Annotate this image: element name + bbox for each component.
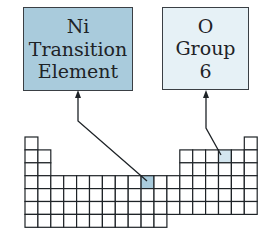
element-cell [90, 189, 103, 202]
element-cell [38, 163, 51, 176]
element-cell [141, 214, 154, 227]
element-cell [64, 214, 77, 227]
element-cell [77, 202, 90, 215]
element-cell [154, 202, 167, 215]
element-cell [25, 214, 38, 227]
element-cell [25, 202, 38, 215]
element-cell [206, 176, 219, 189]
element-cell [167, 189, 180, 202]
element-cell [25, 150, 38, 163]
element-cell [25, 137, 38, 150]
element-cell [180, 150, 193, 163]
element-cell [231, 150, 244, 163]
element-cell [64, 189, 77, 202]
element-cell [102, 214, 115, 227]
element-cell [90, 176, 103, 189]
element-cell [244, 202, 257, 215]
element-cell [244, 189, 257, 202]
element-cell [51, 176, 64, 189]
element-cell [193, 202, 206, 215]
element-cell [180, 163, 193, 176]
element-cell [38, 189, 51, 202]
element-cell [206, 202, 219, 215]
element-cell [141, 189, 154, 202]
element-cell [38, 150, 51, 163]
element-cell [180, 202, 193, 215]
element-cell [244, 176, 257, 189]
periodic-table-grid [25, 137, 257, 227]
element-cell [244, 163, 257, 176]
arrowhead-icon [203, 90, 209, 98]
element-cell [206, 189, 219, 202]
element-cell [180, 176, 193, 189]
element-cell [219, 189, 232, 202]
element-cell [154, 176, 167, 189]
element-cell [102, 189, 115, 202]
element-cell [51, 202, 64, 215]
element-cell [193, 163, 206, 176]
element-cell [128, 214, 141, 227]
element-cell [115, 202, 128, 215]
element-cell [77, 214, 90, 227]
element-cell [102, 176, 115, 189]
o-pointer-arrow [203, 90, 221, 155]
element-cell [90, 202, 103, 215]
element-cell [231, 163, 244, 176]
element-cell [180, 189, 193, 202]
element-cell [154, 214, 167, 227]
element-cell [193, 176, 206, 189]
element-cell [244, 137, 257, 150]
element-cell [231, 176, 244, 189]
element-cell [38, 202, 51, 215]
element-cell [154, 189, 167, 202]
element-cell [64, 176, 77, 189]
element-cell [128, 189, 141, 202]
element-cell [25, 163, 38, 176]
element-cell [77, 176, 90, 189]
element-cell [115, 176, 128, 189]
element-cell [206, 163, 219, 176]
element-cell [206, 150, 219, 163]
element-cell [38, 214, 51, 227]
element-cell [231, 189, 244, 202]
element-cell [167, 176, 180, 189]
element-cell [38, 176, 51, 189]
element-cell [51, 189, 64, 202]
element-cell [219, 202, 232, 215]
element-cell [128, 202, 141, 215]
element-cell [115, 189, 128, 202]
element-cell [193, 150, 206, 163]
element-cell [51, 214, 64, 227]
element-cell [244, 150, 257, 163]
element-cell [219, 150, 232, 163]
element-cell [231, 202, 244, 215]
element-cell [128, 176, 141, 189]
element-cell [193, 189, 206, 202]
element-cell [219, 163, 232, 176]
element-cell [64, 202, 77, 215]
periodic-table-diagram [0, 0, 276, 231]
element-cell [25, 176, 38, 189]
element-cell [102, 202, 115, 215]
element-cell [141, 202, 154, 215]
element-cell [90, 214, 103, 227]
element-cell [167, 202, 180, 215]
arrowhead-icon [75, 90, 81, 98]
element-cell [219, 176, 232, 189]
element-cell [115, 214, 128, 227]
ni-pointer-arrow [75, 90, 147, 181]
element-cell [77, 189, 90, 202]
element-cell [25, 189, 38, 202]
